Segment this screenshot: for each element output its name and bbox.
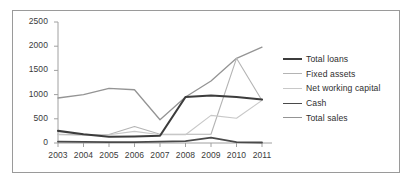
x-axis-tick-label: 2006: [123, 150, 147, 160]
y-axis-tick-label: 1500: [20, 64, 48, 74]
legend-item-label: Total loans: [306, 54, 348, 64]
legend-line-swatch: [283, 103, 302, 104]
chart-legend: Total loansFixed assetsNet working capit…: [283, 52, 405, 125]
series-line-cash: [58, 138, 262, 143]
y-axis-tick-label: 2000: [20, 40, 48, 50]
legend-line-swatch: [283, 88, 302, 89]
x-axis-tick-label: 2007: [148, 150, 172, 160]
series-line-net-working-capital: [58, 100, 262, 135]
x-axis-tick-label: 2010: [225, 150, 249, 160]
legend-item-cash[interactable]: Cash: [283, 96, 405, 111]
legend-item-label: Fixed assets: [306, 69, 355, 79]
line-chart-figure: 05001000150020002500 2003200420052006200…: [0, 0, 415, 183]
y-axis-tick-label: 1000: [20, 89, 48, 99]
x-axis-tick-label: 2004: [72, 150, 96, 160]
y-axis-tick-label: 2500: [20, 16, 48, 26]
x-axis-tick-label: 2008: [174, 150, 198, 160]
x-axis-tick-label: 2003: [46, 150, 70, 160]
x-axis-tick-label: 2005: [97, 150, 121, 160]
legend-line-swatch: [283, 58, 302, 60]
y-axis-tick-label: 500: [20, 113, 48, 123]
legend-item-total-sales[interactable]: Total sales: [283, 110, 405, 125]
legend-item-total-loans[interactable]: Total loans: [283, 52, 405, 67]
series-line-total-sales: [58, 47, 262, 120]
legend-item-label: Cash: [306, 98, 326, 108]
chart-axes: [54, 22, 272, 147]
legend-item-label: Total sales: [306, 113, 348, 123]
series-line-total-loans: [58, 96, 262, 137]
x-axis-tick-label: 2009: [199, 150, 223, 160]
x-axis-tick-label: 2011: [250, 150, 274, 160]
legend-line-swatch: [283, 117, 302, 118]
legend-item-net-working-capital[interactable]: Net working capital: [283, 81, 405, 96]
chart-series-group: [58, 47, 262, 142]
legend-line-swatch: [283, 73, 302, 74]
legend-item-fixed-assets[interactable]: Fixed assets: [283, 67, 405, 82]
legend-item-label: Net working capital: [306, 83, 381, 93]
y-axis-tick-label: 0: [20, 137, 48, 147]
